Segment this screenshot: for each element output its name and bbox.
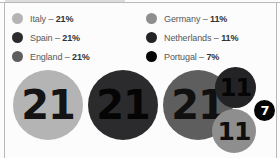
legend-label-netherlands: Netherlands – 11% bbox=[164, 33, 238, 43]
legend-swatch-england bbox=[12, 51, 23, 62]
legend-swatch-spain bbox=[12, 32, 23, 43]
legend-item-germany[interactable]: Germany – 11% bbox=[146, 9, 238, 28]
bubble-value-netherlands: 11 bbox=[220, 76, 251, 100]
bubble-portugal[interactable]: 7 bbox=[254, 100, 275, 121]
bubble-chart-infographic: Italy – 21% Spain – 21% England – 21% Ge… bbox=[0, 0, 280, 158]
bubble-italy[interactable]: 21 bbox=[13, 70, 83, 140]
bubble-value-italy: 21 bbox=[21, 85, 75, 125]
frame-border-top bbox=[0, 2, 280, 3]
bubble-germany[interactable]: 11 bbox=[212, 109, 256, 153]
legend-label-germany: Germany – 11% bbox=[164, 14, 227, 24]
chart-legend: Italy – 21% Spain – 21% England – 21% Ge… bbox=[6, 9, 274, 67]
bubble-netherlands[interactable]: 11 bbox=[215, 67, 256, 108]
legend-label-spain: Spain – 21% bbox=[30, 33, 80, 43]
legend-label-portugal: Portugal – 7% bbox=[164, 52, 219, 62]
bubble-value-portugal: 7 bbox=[260, 104, 268, 117]
legend-label-italy: Italy – 21% bbox=[30, 14, 73, 24]
bubble-value-spain: 21 bbox=[96, 85, 150, 125]
legend-column-right: Germany – 11% Netherlands – 11% Portugal… bbox=[146, 9, 238, 66]
legend-swatch-italy bbox=[12, 13, 23, 24]
legend-swatch-portugal bbox=[146, 51, 157, 62]
legend-item-italy[interactable]: Italy – 21% bbox=[12, 9, 90, 28]
legend-item-spain[interactable]: Spain – 21% bbox=[12, 28, 90, 47]
legend-swatch-germany bbox=[146, 13, 157, 24]
bubble-value-germany: 11 bbox=[218, 119, 251, 144]
bubble-plot-area: 21 21 21 11 11 7 bbox=[0, 62, 280, 158]
legend-label-england: England – 21% bbox=[30, 52, 90, 62]
legend-column-left: Italy – 21% Spain – 21% England – 21% bbox=[12, 9, 90, 66]
legend-swatch-netherlands bbox=[146, 32, 157, 43]
legend-item-netherlands[interactable]: Netherlands – 11% bbox=[146, 28, 238, 47]
bubble-spain[interactable]: 21 bbox=[88, 70, 158, 140]
